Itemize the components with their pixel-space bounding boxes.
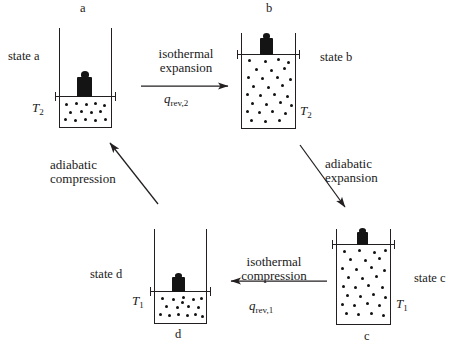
cylinder-a-gas [61, 98, 110, 126]
heat-sub-ab: rev,2 [171, 98, 189, 108]
cylinder-d-piston-tick-left [150, 287, 151, 296]
cylinder-c-piston-block [357, 232, 368, 245]
cylinder-d-letter: d [175, 328, 181, 342]
cylinder-a-wall-left [59, 28, 60, 128]
cylinder-d-piston-block [172, 277, 185, 292]
state-c-label: state c [414, 272, 446, 286]
cylinder-a-base [59, 127, 112, 128]
process-b-to-c-line2: expansion [325, 171, 417, 185]
cylinder-d-gas [156, 293, 205, 322]
cylinder-b-piston-tick-left [237, 50, 238, 59]
cylinder-b-wall-left [241, 33, 242, 129]
heat-symbol-ab: q [164, 91, 171, 106]
process-d-to-a-label: adiabatic compression [50, 158, 168, 186]
process-c-to-d-line2: compression [224, 269, 324, 283]
cylinder-c [336, 229, 391, 325]
heat-symbol-cd: q [249, 298, 256, 313]
state-a-temperature: T2 [32, 101, 44, 115]
cylinder-c-piston-tick-right [394, 240, 395, 249]
cylinder-d [154, 229, 207, 324]
cylinder-a-wall-right [111, 28, 112, 128]
cylinder-a [59, 28, 112, 128]
cylinder-c-piston-knob [359, 228, 366, 233]
process-d-to-a-line2: compression [50, 172, 168, 186]
process-c-to-d-heat: qrev,1 [249, 299, 273, 313]
cylinder-a-piston-knob [81, 71, 89, 78]
temp-sub-d: 1 [139, 300, 144, 310]
state-a-label: state a [8, 50, 40, 64]
cylinder-d-wall-left [154, 229, 155, 324]
cylinder-b-piston-knob [263, 33, 270, 39]
state-b-temperature: T2 [300, 104, 312, 118]
heat-sub-cd: rev,1 [256, 305, 274, 315]
cylinder-c-piston [332, 244, 395, 246]
cylinder-c-letter: c [364, 330, 370, 344]
cylinder-d-piston-knob [175, 273, 182, 278]
temp-sub-b: 2 [307, 110, 312, 120]
state-d-label: state d [90, 268, 122, 282]
cylinder-b-base [241, 128, 296, 129]
process-a-to-b-line1: isothermal [140, 47, 232, 61]
cylinder-a-letter: a [80, 2, 86, 16]
process-a-to-b-line2: expansion [140, 61, 232, 75]
cylinder-d-piston-tick-right [210, 287, 211, 296]
process-a-to-b-label: isothermal expansion [140, 47, 232, 75]
temp-sub-c: 1 [403, 303, 408, 313]
cylinder-a-piston [55, 96, 116, 98]
cylinder-d-base [154, 323, 207, 324]
process-c-to-d-line1: isothermal [224, 255, 324, 269]
cylinder-d-wall-right [206, 229, 207, 324]
cylinder-c-base [336, 324, 391, 325]
process-b-to-c-label: adiabatic expansion [325, 157, 417, 185]
cylinder-a-piston-tick-left [55, 92, 56, 101]
cylinder-b-gas [243, 56, 294, 127]
cylinder-b-piston-block [260, 38, 273, 55]
state-d-temperature: T1 [132, 294, 144, 308]
temp-sub-a: 2 [39, 107, 44, 117]
state-c-temperature: T1 [396, 297, 408, 311]
cylinder-b-wall-right [295, 33, 296, 129]
cylinder-c-gas [338, 246, 389, 323]
process-c-to-d-label: isothermal compression [224, 255, 324, 283]
cylinder-a-piston-tick-right [115, 92, 116, 101]
process-d-to-a-line1: adiabatic [50, 158, 168, 172]
carnot-cycle-diagram: a state a T2 [0, 0, 461, 353]
process-b-to-c-line1: adiabatic [325, 157, 417, 171]
cylinder-b-piston [237, 54, 300, 56]
cylinder-a-piston-block [77, 77, 92, 97]
cylinder-c-piston-tick-left [332, 240, 333, 249]
cylinder-b [241, 33, 296, 129]
state-b-label: state b [320, 51, 352, 65]
cylinder-b-piston-tick-right [299, 50, 300, 59]
process-a-to-b-heat: qrev,2 [164, 92, 188, 106]
cylinder-b-letter: b [266, 2, 272, 16]
cylinder-d-piston [150, 291, 211, 293]
